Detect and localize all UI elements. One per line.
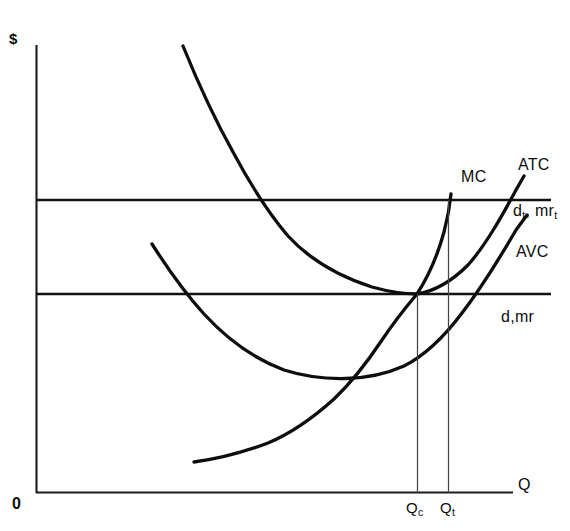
mc-curve-label: MC <box>461 169 486 185</box>
dt-mrt-label-mr: , mr <box>525 202 554 219</box>
atc-curve-label: ATC <box>518 157 550 173</box>
qc-tick-label: Qc <box>406 500 424 515</box>
qt-tick-sub: t <box>452 506 455 518</box>
x-axis-label: Q <box>518 477 531 493</box>
y-axis-label: $ <box>9 31 18 46</box>
dt-mrt-label-d: d <box>513 202 522 219</box>
avc-curve-label: AVC <box>516 244 549 260</box>
chart-canvas <box>0 0 570 531</box>
qc-tick-sub: c <box>418 506 424 518</box>
dt-mrt-label-mr-sub: t <box>554 209 557 221</box>
mc-curve <box>194 194 451 462</box>
dt-mrt-label-d-sub: t <box>522 209 525 221</box>
qt-tick-main: Q <box>440 499 452 516</box>
dt-mrt-line-label: dt, mrt <box>513 203 557 219</box>
qt-tick-label: Qt <box>440 500 455 515</box>
qc-tick-main: Q <box>406 499 418 516</box>
avc-curve <box>152 215 527 379</box>
origin-label: 0 <box>12 496 21 512</box>
d-mr-line-label: d,mr <box>501 309 534 325</box>
economics-cost-curve-figure: $ 0 Q MC ATC dt, mrt AVC d,mr Qc Qt <box>0 0 570 531</box>
